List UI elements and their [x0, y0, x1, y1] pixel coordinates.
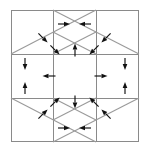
diagonal-lines [11, 10, 139, 142]
arrow-down-right-cell-head [123, 64, 128, 70]
arrow-northeast-2-shaft [50, 102, 55, 107]
arrow-down-bottom [73, 96, 78, 109]
arrow-southwest-1 [101, 33, 110, 42]
arrow-down-left-cell [23, 58, 28, 70]
arrow-left-bottom [79, 126, 91, 131]
arrow-up-left-cell [23, 82, 28, 94]
arrow-glyphs [23, 22, 128, 131]
arrow-left-left-cell-head [43, 74, 49, 79]
arrow-southeast-2-shaft [50, 45, 55, 50]
outer-frame [12, 11, 139, 142]
arrow-right-top [58, 22, 70, 27]
arrow-right-right-cell-head [102, 74, 108, 79]
arrow-quilt-diagram [0, 0, 149, 151]
arrow-down-right-cell [123, 58, 128, 70]
arrow-right-bottom [58, 126, 70, 131]
arrow-up-right-cell-head [123, 82, 128, 88]
arrow-left-top [79, 22, 91, 27]
arrow-up-right-cell [123, 82, 128, 94]
arrow-northeast-1-shaft [38, 114, 43, 119]
figure-root [0, 0, 149, 151]
frame-rect [12, 11, 139, 142]
arrow-left-top-head [79, 22, 85, 27]
arrow-northwest-1 [101, 109, 110, 118]
arrow-southeast-1 [38, 33, 47, 42]
arrow-left-bottom-head [79, 126, 85, 131]
arrow-southeast-1-shaft [38, 33, 43, 38]
grid-lines [11, 10, 139, 142]
arrow-up-left-cell-head [23, 82, 28, 88]
arrow-down-left-cell-head [23, 64, 28, 70]
arrow-northeast-1 [38, 109, 47, 118]
